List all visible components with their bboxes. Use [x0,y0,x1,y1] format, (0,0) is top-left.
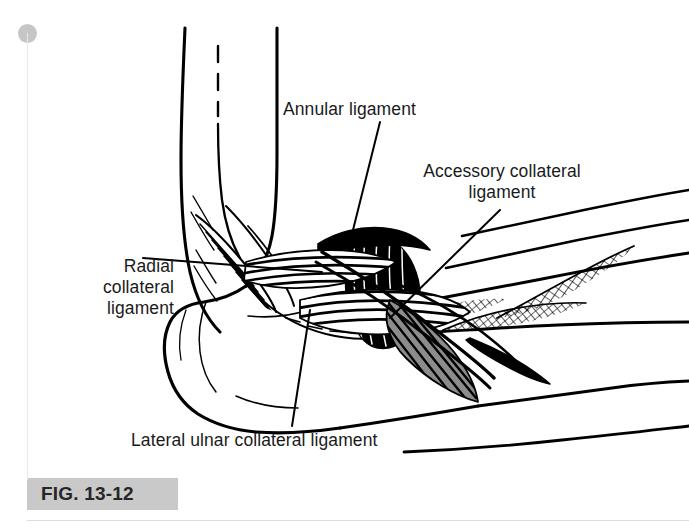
page-edge-line-left-artifact [27,33,28,480]
figure-page: Annular ligament Accessory collateral li… [0,0,689,532]
figure-caption-banner: FIG. 13-12 [27,478,178,510]
label-annular-ligament: Annular ligament [283,99,416,120]
label-radial-collateral-ligament: Radial collateral ligament [40,256,174,319]
label-lateral-ulnar-collateral-ligament: Lateral ulnar collateral ligament [131,430,378,451]
page-edge-line-bottom-artifact [27,520,689,521]
label-accessory-collateral-ligament: Accessory collateral ligament [404,161,600,203]
figure-caption-text: FIG. 13-12 [27,483,134,505]
leader-line-lateral-ulnar [292,310,310,426]
